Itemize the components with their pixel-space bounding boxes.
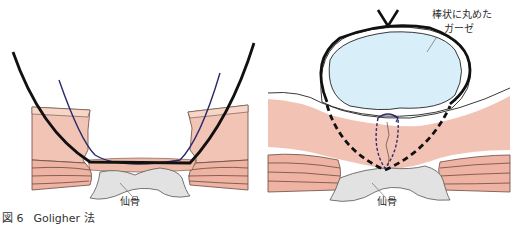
caption-title: Goligher 法: [34, 212, 95, 225]
gauze-label-line2: ガーゼ: [444, 24, 474, 34]
suture-knot: [378, 10, 398, 26]
left-bone-label: 仙骨: [120, 197, 140, 207]
gauze-roll: [329, 32, 461, 110]
right-panel-left-muscle: [268, 154, 341, 192]
left-panel: [13, 43, 254, 199]
left-sacrum: [90, 168, 190, 199]
caption-number: 図 6: [2, 212, 24, 225]
gauze-label-line1: 棒状に丸めた: [432, 10, 492, 20]
right-panel-right-muscle: [439, 155, 510, 192]
figure-caption: 図 6Goligher 法: [2, 209, 95, 225]
right-muscle: [188, 160, 248, 190]
right-bone-label: 仙骨: [377, 197, 397, 207]
right-panel: [268, 10, 510, 201]
left-muscle: [32, 160, 92, 190]
